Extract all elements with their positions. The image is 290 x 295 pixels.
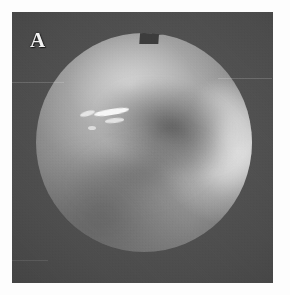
scan-line-lower-left [12,260,48,261]
panel-label: A [30,30,45,51]
scan-line-upper-left [12,82,64,83]
endoscopic-field-of-view [36,33,252,252]
highlight-speck-icon [88,126,97,130]
scan-line-upper-right [218,78,272,79]
figure-panel-a: A [0,0,290,295]
photograph-plate: A [12,12,273,283]
